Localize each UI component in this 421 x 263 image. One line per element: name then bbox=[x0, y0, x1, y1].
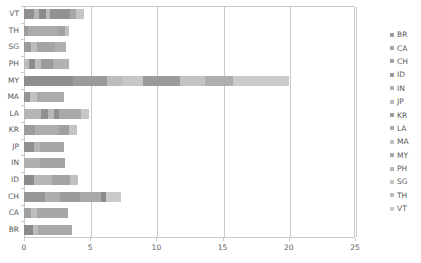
bar-segment-CH[interactable] bbox=[58, 26, 65, 36]
bar-row bbox=[24, 122, 355, 139]
bar-KR[interactable] bbox=[24, 125, 77, 135]
x-tick-label-20: 20 bbox=[284, 243, 294, 252]
bar-TH[interactable] bbox=[24, 26, 69, 36]
bar-segment-BR[interactable] bbox=[24, 76, 73, 86]
bar-segment-CH[interactable] bbox=[37, 42, 55, 52]
y-tick-label-KR: KR bbox=[9, 126, 19, 134]
bar-row bbox=[24, 188, 355, 205]
legend-swatch-icon bbox=[390, 180, 394, 184]
bar-segment-ID[interactable] bbox=[80, 192, 102, 202]
bar-SG[interactable] bbox=[24, 42, 66, 52]
bar-segment-BR[interactable] bbox=[24, 42, 31, 52]
bar-JP[interactable] bbox=[24, 142, 64, 152]
bar-segment-CH[interactable] bbox=[60, 192, 79, 202]
bar-MY[interactable] bbox=[24, 76, 289, 86]
bar-segment-CH[interactable] bbox=[38, 225, 72, 235]
y-tick-mark bbox=[21, 89, 24, 90]
bar-segment-CA[interactable] bbox=[34, 175, 53, 185]
bar-segment-BR[interactable] bbox=[24, 192, 45, 202]
bar-segment-BR[interactable] bbox=[24, 208, 31, 218]
y-tick-mark bbox=[21, 155, 24, 156]
bar-segment-BR[interactable] bbox=[24, 109, 41, 119]
legend-item-MA[interactable]: MA bbox=[390, 135, 421, 148]
bar-segment-IN[interactable] bbox=[53, 59, 69, 69]
legend-label: PH bbox=[397, 164, 407, 173]
bar-segment-BR[interactable] bbox=[24, 175, 34, 185]
legend-item-CA[interactable]: CA bbox=[390, 41, 421, 54]
bar-segment-CA[interactable] bbox=[41, 109, 48, 119]
bar-segment-LA[interactable] bbox=[233, 76, 289, 86]
legend-swatch-icon bbox=[390, 140, 394, 144]
legend-item-ID[interactable]: ID bbox=[390, 68, 421, 81]
legend-item-LA[interactable]: LA bbox=[390, 122, 421, 135]
legend-item-TH[interactable]: TH bbox=[390, 189, 421, 202]
bar-segment-BR[interactable] bbox=[24, 125, 35, 135]
bar-segment-CA[interactable] bbox=[40, 158, 65, 168]
bar-segment-ID[interactable] bbox=[65, 26, 69, 36]
y-tick-mark bbox=[21, 205, 24, 206]
bar-segment-CH[interactable] bbox=[40, 142, 64, 152]
bar-segment-ID[interactable] bbox=[41, 59, 53, 69]
bar-segment-JP[interactable] bbox=[180, 76, 205, 86]
legend-item-KR[interactable]: KR bbox=[390, 108, 421, 121]
bar-segment-MY[interactable] bbox=[50, 9, 71, 19]
bar-CA[interactable] bbox=[24, 208, 68, 218]
legend-item-VT[interactable]: VT bbox=[390, 202, 421, 215]
bar-segment-CA[interactable] bbox=[35, 125, 59, 135]
legend-swatch-icon bbox=[390, 207, 394, 211]
bar-segment-CH[interactable] bbox=[59, 125, 69, 135]
x-tick-label-0: 0 bbox=[22, 243, 27, 252]
bar-IN[interactable] bbox=[24, 158, 65, 168]
legend-item-CH[interactable]: CH bbox=[390, 55, 421, 68]
bar-segment-CA[interactable] bbox=[73, 76, 107, 86]
bar-MA[interactable] bbox=[24, 92, 64, 102]
bar-segment-ID[interactable] bbox=[70, 175, 78, 185]
bar-segment-ID[interactable] bbox=[55, 42, 66, 52]
bar-segment-JP[interactable] bbox=[106, 192, 121, 202]
legend-swatch-icon bbox=[390, 86, 394, 90]
bar-segment-ID[interactable] bbox=[69, 125, 77, 135]
bar-ID[interactable] bbox=[24, 175, 78, 185]
legend-label: KR bbox=[397, 111, 407, 120]
bar-segment-CA[interactable] bbox=[30, 92, 37, 102]
x-tick-mark-15 bbox=[223, 238, 224, 241]
legend-item-MY[interactable]: MY bbox=[390, 149, 421, 162]
bar-segment-CH[interactable] bbox=[52, 175, 70, 185]
x-tick-mark-10 bbox=[156, 238, 157, 241]
bar-CH[interactable] bbox=[24, 192, 121, 202]
y-tick-label-CA: CA bbox=[9, 209, 19, 217]
bar-segment-IN[interactable] bbox=[59, 109, 81, 119]
bar-segment-SG[interactable] bbox=[39, 9, 46, 19]
bar-row bbox=[24, 172, 355, 189]
bar-segment-IN[interactable] bbox=[143, 76, 180, 86]
bar-segment-CH[interactable] bbox=[37, 208, 68, 218]
y-tick-mark bbox=[21, 105, 24, 106]
bar-LA[interactable] bbox=[24, 109, 89, 119]
bar-BR[interactable] bbox=[24, 225, 72, 235]
legend: BRCACHIDINJPKRLAMAMYPHSGTHVT bbox=[390, 28, 421, 215]
bar-segment-JP[interactable] bbox=[81, 109, 89, 119]
legend-label: BR bbox=[397, 30, 407, 39]
y-tick-label-MA: MA bbox=[7, 93, 19, 101]
y-tick-mark bbox=[21, 188, 24, 189]
bar-segment-KR[interactable] bbox=[205, 76, 233, 86]
bar-segment-BR[interactable] bbox=[24, 225, 33, 235]
legend-item-PH[interactable]: PH bbox=[390, 162, 421, 175]
bar-PH[interactable] bbox=[24, 59, 69, 69]
bar-segment-VT[interactable] bbox=[24, 9, 34, 19]
legend-item-IN[interactable]: IN bbox=[390, 82, 421, 95]
y-tick-label-MY: MY bbox=[8, 77, 19, 85]
y-tick-label-JP: JP bbox=[12, 143, 19, 151]
bar-segment-CA[interactable] bbox=[28, 26, 58, 36]
legend-item-SG[interactable]: SG bbox=[390, 175, 421, 188]
bar-segment-KR[interactable] bbox=[76, 9, 83, 19]
legend-item-BR[interactable]: BR bbox=[390, 28, 421, 41]
bar-VT[interactable] bbox=[24, 9, 84, 19]
bar-segment-CH[interactable] bbox=[37, 92, 63, 102]
bar-segment-CH[interactable] bbox=[107, 76, 122, 86]
bar-segment-BR[interactable] bbox=[24, 142, 34, 152]
bar-segment-BR[interactable] bbox=[24, 158, 40, 168]
bar-segment-CA[interactable] bbox=[45, 192, 60, 202]
bar-segment-ID[interactable] bbox=[122, 76, 143, 86]
legend-item-JP[interactable]: JP bbox=[390, 95, 421, 108]
